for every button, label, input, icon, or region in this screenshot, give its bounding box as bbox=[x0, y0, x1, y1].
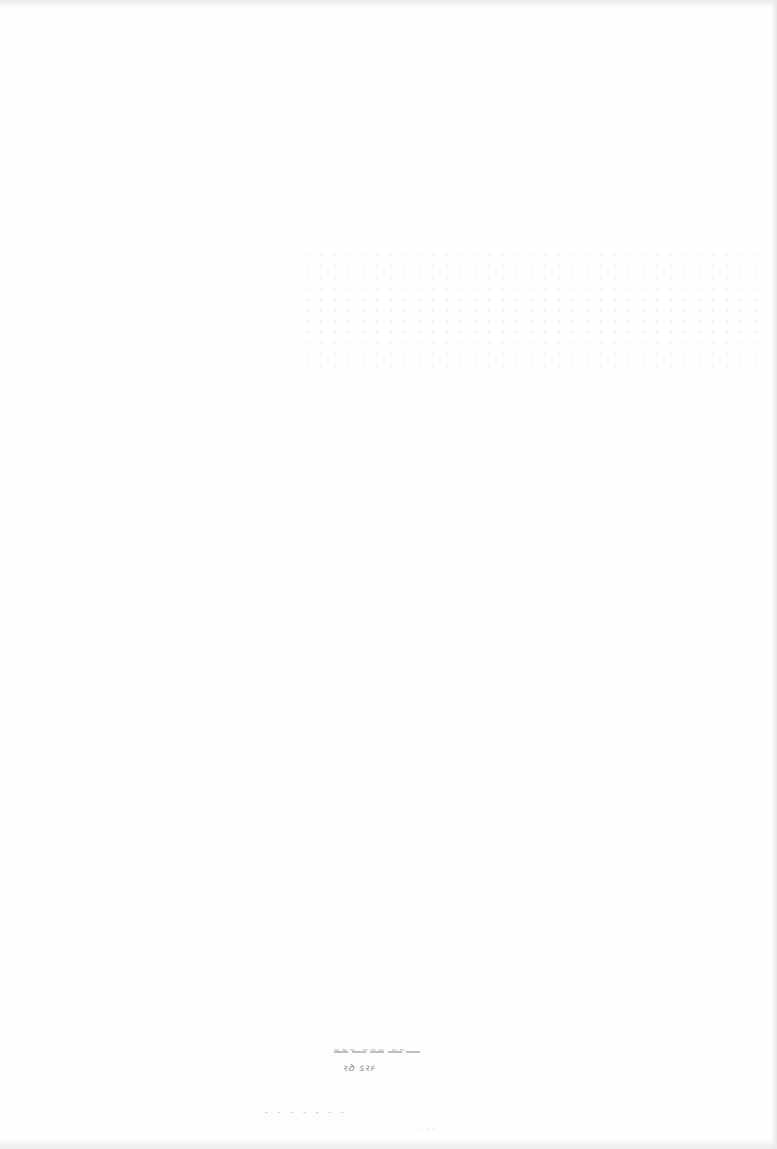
bleed-through-text bbox=[300, 250, 760, 370]
faint-mark-line-1: ~~~ ~~~ ~~ bbox=[334, 1045, 407, 1055]
document-page: ~~~ ~~~ ~~ ꝛꝺ ꜱꝛꜰ - - - - - - - · · · bbox=[0, 0, 777, 1149]
page-right-edge bbox=[771, 0, 777, 1149]
faint-mark-line-4: · · · bbox=[420, 1124, 435, 1133]
page-top-edge bbox=[0, 0, 777, 8]
page-bottom-edge bbox=[0, 1139, 777, 1149]
faint-mark-line-3: - - - - - - - bbox=[265, 1108, 348, 1117]
faint-signature-mark: ꝛꝺ ꜱꝛꜰ bbox=[342, 1060, 375, 1074]
